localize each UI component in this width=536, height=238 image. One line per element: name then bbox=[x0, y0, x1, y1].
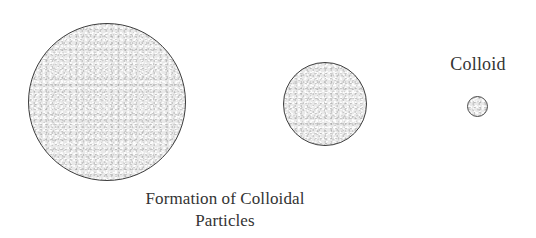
colloid-formation-figure: Colloid Formation of Colloidal Particles bbox=[0, 0, 536, 238]
medium-particle-circle bbox=[283, 62, 367, 146]
figure-caption: Formation of Colloidal Particles bbox=[100, 188, 350, 232]
colloid-particle-circle bbox=[467, 96, 488, 117]
figure-caption-line-1: Formation of Colloidal bbox=[100, 188, 350, 210]
large-particle-circle bbox=[28, 23, 186, 181]
colloid-label: Colloid bbox=[425, 54, 531, 75]
figure-caption-line-2: Particles bbox=[100, 210, 350, 232]
